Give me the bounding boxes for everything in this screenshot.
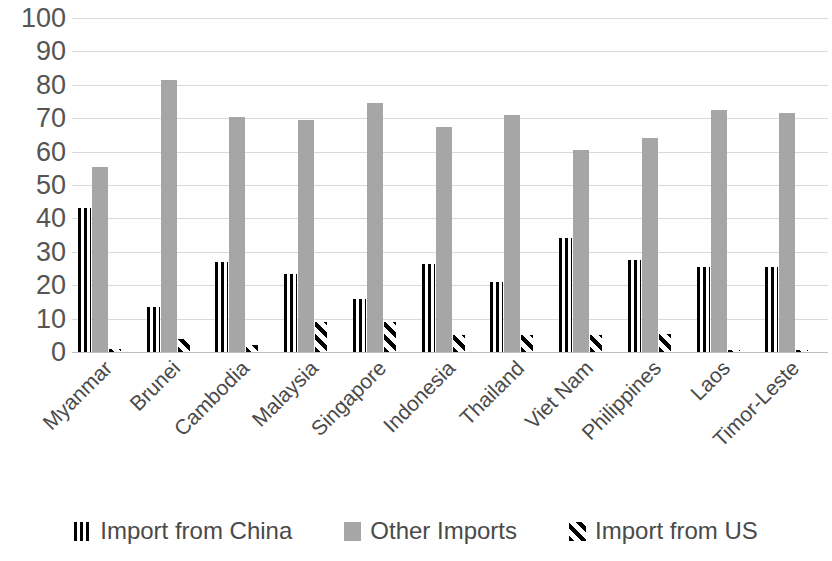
bar-other-imports [573,150,589,352]
bar-import-from-us [315,322,327,352]
bar-import-from-us [521,335,533,352]
legend-item[interactable]: Import from China [74,518,292,544]
y-tick-label: 100 [0,5,66,32]
us-swatch-icon [569,522,586,541]
bar-import-from-china [78,208,91,352]
bar-import-from-china [284,274,297,352]
bar-import-from-us [590,335,602,352]
legend-label: Import from China [100,518,292,544]
bar-import-from-us [178,339,190,352]
y-tick-label: 40 [0,205,66,232]
bar-import-from-china [490,282,503,352]
bar-import-from-china [147,307,160,352]
bar-other-imports [779,113,795,352]
bar-group [347,18,416,352]
x-axis-line [72,352,828,353]
legend-item[interactable]: Import from US [569,518,758,544]
bar-group [278,18,347,352]
y-tick-label: 80 [0,72,66,99]
bar-other-imports [367,103,383,352]
bar-group [209,18,278,352]
bar-import-from-us [109,349,121,352]
bar-group [691,18,760,352]
bar-import-from-us [384,322,396,352]
bar-other-imports [436,127,452,352]
bar-other-imports [92,167,108,352]
bar-import-from-china [697,267,710,352]
legend-label: Other Imports [370,518,517,544]
bar-group [72,18,141,352]
bar-group [141,18,210,352]
bar-import-from-china [559,238,572,352]
legend-label: Import from US [595,518,758,544]
bar-group [553,18,622,352]
plot-area [72,18,828,352]
bar-import-from-us [728,350,740,352]
bar-group [622,18,691,352]
bar-import-from-china [353,299,366,352]
bar-import-from-us [246,345,258,352]
y-tick-label: 50 [0,172,66,199]
y-tick-label: 90 [0,38,66,65]
y-axis-tick-labels: 1009080706050403020100 [0,0,66,370]
y-tick-label: 70 [0,105,66,132]
bar-other-imports [642,138,658,352]
y-tick-label: 20 [0,272,66,299]
y-tick-label: 10 [0,306,66,333]
bar-other-imports [711,110,727,352]
bar-other-imports [229,117,245,352]
bar-import-from-us [453,335,465,352]
y-tick-label: 60 [0,139,66,166]
bar-import-from-us [659,334,671,352]
bar-group [484,18,553,352]
x-axis-category-labels: MyanmarBruneiCambodiaMalaysiaSingaporeIn… [0,356,832,496]
bar-other-imports [298,120,314,352]
bar-import-from-china [215,262,228,352]
bar-group [416,18,485,352]
bar-other-imports [161,80,177,352]
bar-import-from-china [628,260,641,352]
other-imports-swatch-icon [344,522,361,541]
bar-import-from-us [796,350,808,352]
bar-import-from-china [765,267,778,352]
bar-chart: 1009080706050403020100 MyanmarBruneiCamb… [0,0,832,561]
bar-other-imports [504,115,520,352]
china-swatch-icon [74,522,91,541]
y-tick-label: 30 [0,239,66,266]
bar-group [759,18,828,352]
bar-import-from-china [422,264,435,353]
legend-item[interactable]: Other Imports [344,518,517,544]
chart-legend: Import from ChinaOther ImportsImport fro… [0,508,832,554]
